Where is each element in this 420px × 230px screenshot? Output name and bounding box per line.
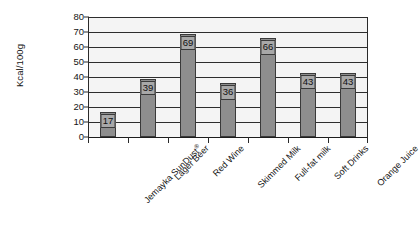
y-axis-title: Kcal/100g [14, 21, 25, 111]
y-tick-label: 0 [58, 132, 84, 142]
bar[interactable]: 66 [260, 38, 276, 137]
y-tick-label: 20 [58, 102, 84, 112]
x-tick-mark [328, 137, 329, 143]
x-tick-mark [88, 137, 89, 143]
bar-slot: 43 [288, 17, 328, 137]
bar[interactable]: 69 [180, 34, 196, 138]
y-tick-label: 10 [58, 117, 84, 127]
bar-value-label: 17 [101, 114, 116, 129]
x-tick-mark [288, 137, 289, 143]
bar[interactable]: 17 [100, 112, 116, 138]
x-tick-mark [248, 137, 249, 143]
bar-slot: 43 [328, 17, 368, 137]
bar[interactable]: 36 [220, 83, 236, 137]
bar-value-label: 43 [341, 75, 356, 90]
bar-slot: 69 [168, 17, 208, 137]
bar-slot: 17 [88, 17, 128, 137]
x-axis-ticks [88, 137, 368, 144]
y-tick-label: 70 [58, 27, 84, 37]
bar-value-label: 43 [301, 75, 316, 90]
bar[interactable]: 39 [140, 79, 156, 138]
x-axis-category-label: Soft Drinks [333, 144, 371, 182]
x-tick-mark [128, 137, 129, 143]
bar[interactable]: 43 [300, 73, 316, 138]
x-tick-mark [367, 137, 368, 143]
bar-slot: 39 [128, 17, 168, 137]
bars-layer: 17396936664343 [88, 17, 368, 137]
bar-slot: 36 [208, 17, 248, 137]
y-tick-label: 80 [58, 12, 84, 22]
bar-value-label: 66 [261, 40, 276, 55]
bar-slot: 66 [248, 17, 288, 137]
y-tick-label: 30 [58, 87, 84, 97]
bar-value-label: 36 [221, 85, 236, 100]
y-tick-label: 40 [58, 72, 84, 82]
bar-value-label: 69 [181, 36, 196, 51]
x-axis-labels: Jemayka SunDust®Lager BeerRed WineSkimme… [88, 144, 368, 230]
bar[interactable]: 43 [340, 73, 356, 138]
x-tick-mark [168, 137, 169, 143]
y-axis: 01020304050607080 [56, 17, 84, 137]
y-tick-label: 50 [58, 57, 84, 67]
y-tick-label: 60 [58, 42, 84, 52]
x-axis-category-label: Orange Juice [376, 144, 420, 189]
x-axis-category-label: Red Wine [212, 144, 247, 179]
x-tick-mark [208, 137, 209, 143]
bar-value-label: 39 [141, 81, 156, 96]
x-axis-category-label: Skimmed Milk [256, 144, 302, 190]
